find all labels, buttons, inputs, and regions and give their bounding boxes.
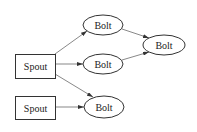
spout-label: Spout	[24, 61, 48, 72]
spout-label: Spout	[24, 103, 48, 114]
bolt-label: Bolt	[155, 40, 172, 51]
edge-bolt2-bolt4	[122, 52, 149, 60]
edge-spout1-bolt1	[55, 31, 87, 54]
bolt-node-2: Bolt	[83, 54, 123, 74]
spout-node-2: Spout	[16, 97, 56, 120]
bolt-label: Bolt	[95, 102, 112, 113]
bolt-node-3: Bolt	[84, 96, 124, 118]
topology-diagram: Spout Spout Bolt Bolt Bolt Bolt	[0, 0, 197, 132]
bolt-label: Bolt	[94, 59, 111, 70]
spout-node-1: Spout	[16, 55, 56, 79]
bolt-node-1: Bolt	[83, 15, 123, 35]
edge-spout1-bolt3	[55, 74, 93, 97]
bolt-label: Bolt	[94, 20, 111, 31]
edge-bolt1-bolt4	[122, 29, 149, 38]
bolt-node-4: Bolt	[143, 35, 185, 55]
